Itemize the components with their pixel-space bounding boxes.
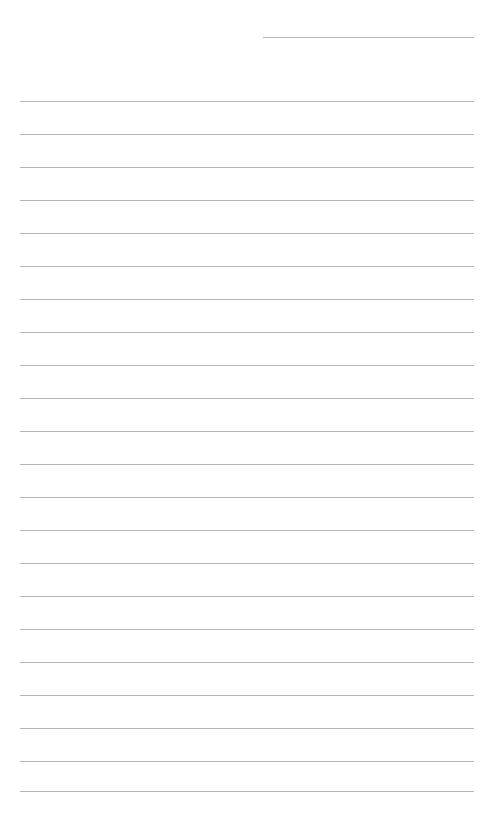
- ruled-line: [20, 497, 474, 498]
- ruled-line: [20, 233, 474, 234]
- ruled-line: [20, 761, 474, 762]
- ruled-line: [20, 266, 474, 267]
- ruled-line: [20, 464, 474, 465]
- lined-paper-page: [0, 0, 494, 816]
- ruled-line: [20, 530, 474, 531]
- ruled-line: [20, 167, 474, 168]
- ruled-line: [20, 299, 474, 300]
- ruled-line: [20, 431, 474, 432]
- ruled-line: [20, 791, 474, 792]
- ruled-line: [20, 332, 474, 333]
- ruled-line: [20, 563, 474, 564]
- header-line: [263, 37, 474, 38]
- ruled-line: [20, 398, 474, 399]
- ruled-line: [20, 629, 474, 630]
- ruled-line: [20, 200, 474, 201]
- ruled-line: [20, 662, 474, 663]
- ruled-line: [20, 134, 474, 135]
- ruled-line: [20, 596, 474, 597]
- ruled-line: [20, 101, 474, 102]
- ruled-line: [20, 695, 474, 696]
- ruled-line: [20, 728, 474, 729]
- ruled-line: [20, 365, 474, 366]
